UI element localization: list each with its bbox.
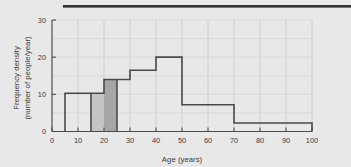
x-axis-title: Age (years) [162,155,203,164]
x-tick-label-10: 10 [74,136,82,145]
x-tick-label-50: 50 [178,136,186,145]
histogram-figure: 01020304050607080901000102030 Age (years… [0,0,351,167]
x-tick-label-60: 60 [204,136,212,145]
histogram-plot: 01020304050607080901000102030 Age (years… [0,0,351,167]
x-tick-label-90: 90 [282,136,290,145]
x-tick-label-30: 30 [126,136,134,145]
y-axis-title-line2: (number of people/year) [23,36,32,120]
y-tick-label-0: 0 [42,127,46,136]
x-tick-label-40: 40 [152,136,160,145]
y-tick-label-10: 10 [38,90,46,99]
x-tick-label-20: 20 [100,136,108,145]
x-tick-label-70: 70 [230,136,238,145]
x-tick-label-80: 80 [256,136,264,145]
x-tick-label-0: 0 [50,136,54,145]
y-tick-label-30: 30 [38,16,46,25]
y-tick-label-20: 20 [38,53,46,62]
tick-labels-group: 01020304050607080901000102030 [38,16,318,145]
light-shaded-band-15-20 [91,93,104,131]
dark-shaded-band-20-25 [104,79,117,131]
x-tick-label-100: 100 [306,136,318,145]
y-axis-title-line1: Frequency density [12,46,21,110]
